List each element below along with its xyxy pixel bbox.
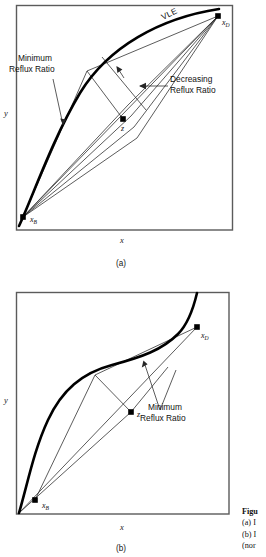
label-xd-a-sub: D — [225, 22, 230, 28]
marker-xd-a — [215, 13, 221, 19]
marker-xd-b — [194, 324, 200, 330]
figure-caption-line-3: (nor — [242, 540, 266, 551]
marker-xb-a — [20, 214, 26, 220]
panel-a-plot: xD xB z VLE Minimum Reflux Ratio Decreas… — [0, 0, 266, 280]
panel-b: xD xB z Minimum Reflux Ratio y x (b) — [0, 270, 266, 557]
panel-a: xD xB z VLE Minimum Reflux Ratio Decreas… — [0, 0, 266, 280]
figure-caption-line-0: Figu — [242, 506, 266, 517]
vle-curve-a — [19, 9, 219, 226]
annotation-minimum-reflux-a-line1: Minimum — [18, 53, 52, 63]
axis-label-x-b: x — [119, 522, 124, 532]
label-xb-a-sub: B — [34, 219, 38, 225]
label-xb-a: xB — [29, 215, 38, 225]
label-xb-b-sub: B — [46, 505, 50, 511]
axis-label-x-a: x — [119, 235, 124, 245]
axis-label-y-b: y — [3, 395, 8, 405]
subcaption-b: (b) — [116, 544, 126, 553]
axis-label-y-a: y — [3, 108, 8, 118]
decreasing-reflux-arrowhead-a — [139, 83, 146, 89]
figure-caption: Figu (a) I (b) I (nor — [242, 506, 266, 552]
panel-b-plot: xD xB z Minimum Reflux Ratio y x (b) — [0, 270, 266, 557]
subcaption-a: (a) — [116, 259, 126, 268]
feed-line-a — [87, 71, 123, 119]
label-xb-b: xB — [41, 501, 50, 511]
figure-page: xD xB z VLE Minimum Reflux Ratio Decreas… — [0, 0, 266, 557]
annotation-decreasing-reflux-a-line2: Reflux Ratio — [170, 85, 216, 95]
minimum-reflux-arrowhead-b-1 — [142, 360, 148, 367]
minimum-reflux-leader-a — [53, 79, 63, 125]
label-z-a: z — [120, 124, 125, 133]
annotation-minimum-reflux-b-line1: Minimum — [148, 402, 182, 412]
decreasing-reflux-arrowhead-a-2 — [116, 66, 122, 73]
marker-z-a — [120, 116, 126, 122]
label-xd-b-sub: D — [204, 335, 209, 341]
figure-caption-line-1: (a) I — [242, 517, 266, 528]
tie-line-a — [102, 57, 146, 110]
annotation-minimum-reflux-a-line2: Reflux Ratio — [9, 64, 55, 74]
marker-xb-b — [32, 497, 38, 503]
annotation-decreasing-reflux-a-line1: Decreasing — [170, 74, 213, 84]
label-xd-a: xD — [221, 18, 230, 28]
feed-line-b-upper — [95, 375, 131, 412]
figure-caption-line-2: (b) I — [242, 529, 266, 540]
annotation-minimum-reflux-b-line2: Reflux Ratio — [140, 413, 186, 423]
label-xd-b: xD — [200, 331, 209, 341]
marker-z-b — [128, 409, 134, 415]
